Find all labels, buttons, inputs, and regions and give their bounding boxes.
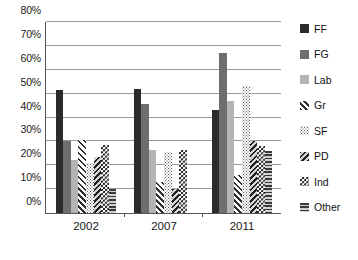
- bar-other-2002[interactable]: [109, 189, 117, 213]
- x-axis-tick-label: 2007: [151, 220, 177, 232]
- bar-group: 2007: [125, 22, 203, 213]
- legend-item-pd[interactable]: PD: [300, 144, 358, 170]
- legend-swatch-gr-icon: [300, 101, 309, 110]
- bar-ff-2007[interactable]: [134, 89, 142, 213]
- bar-ind-2011[interactable]: [257, 146, 265, 213]
- y-axis-tick-label: 0%: [26, 195, 41, 207]
- legend-item-lab[interactable]: Lab: [300, 67, 358, 93]
- x-axis-tick-label: 2011: [230, 220, 255, 232]
- bar-other-2011[interactable]: [265, 151, 273, 213]
- legend-swatch-sf-icon: [300, 126, 309, 135]
- bar-fg-2007[interactable]: [141, 104, 149, 213]
- legend-label: Other: [314, 202, 340, 213]
- bar-pd-2011[interactable]: [250, 141, 258, 213]
- legend-item-ind[interactable]: Ind: [300, 169, 358, 195]
- legend-label: SF: [314, 126, 327, 137]
- legend-swatch-lab-icon: [300, 75, 309, 84]
- bar-group: 2002: [47, 22, 125, 213]
- legend-label: FG: [314, 49, 329, 60]
- legend-item-sf[interactable]: SF: [300, 118, 358, 144]
- bar-pd-2007[interactable]: [172, 189, 180, 213]
- bar-sf-2002[interactable]: [86, 163, 94, 213]
- x-axis-tick-mark: [202, 213, 203, 217]
- bar-ind-2007[interactable]: [179, 150, 187, 213]
- legend-label: Lab: [314, 75, 332, 86]
- legend-item-gr[interactable]: Gr: [300, 93, 358, 119]
- bar-gr-2011[interactable]: [234, 175, 242, 213]
- plot-area: 0%10%20%30%40%50%60%70%80% 200220072011: [45, 22, 281, 214]
- y-axis-tick-label: 20%: [21, 147, 41, 159]
- legend-swatch-pd-icon: [300, 152, 309, 161]
- bar-ff-2002[interactable]: [56, 90, 64, 213]
- bar-pd-2002[interactable]: [94, 157, 102, 213]
- bar-ind-2002[interactable]: [101, 145, 109, 213]
- bar-group: 2011: [203, 22, 281, 213]
- x-axis-tick-label: 2002: [73, 220, 99, 232]
- bar-group-bars: [212, 22, 273, 213]
- legend-item-fg[interactable]: FG: [300, 42, 358, 68]
- legend-label: Gr: [314, 100, 326, 111]
- bar-lab-2011[interactable]: [227, 101, 235, 213]
- x-axis-tick-mark: [124, 213, 125, 217]
- y-axis-tick-label: 60%: [21, 52, 41, 64]
- bar-groups: 200220072011: [47, 22, 281, 213]
- bar-ff-2011[interactable]: [212, 110, 220, 213]
- y-axis-tick-label: 80%: [21, 4, 41, 16]
- bar-gr-2007[interactable]: [156, 182, 164, 213]
- bar-chart: 0%10%20%30%40%50%60%70%80% 200220072011 …: [0, 0, 358, 260]
- legend-item-ff[interactable]: FF: [300, 16, 358, 42]
- y-axis-tick-label: 30%: [21, 123, 41, 135]
- bar-lab-2002[interactable]: [71, 160, 79, 213]
- legend-swatch-fg-icon: [300, 50, 309, 59]
- y-axis-tick-label: 50%: [21, 76, 41, 88]
- legend-swatch-other-icon: [300, 203, 309, 212]
- legend-swatch-ind-icon: [300, 177, 309, 186]
- legend: FFFGLabGrSFPDIndOther: [300, 16, 358, 220]
- bar-fg-2002[interactable]: [63, 141, 71, 213]
- legend-label: FF: [314, 24, 327, 35]
- y-axis-tick-label: 10%: [21, 171, 41, 183]
- y-axis-tick-label: 70%: [21, 28, 41, 40]
- bar-fg-2011[interactable]: [219, 53, 227, 213]
- bar-group-bars: [134, 22, 195, 213]
- bar-gr-2002[interactable]: [78, 140, 86, 213]
- bar-group-bars: [56, 22, 117, 213]
- legend-label: PD: [314, 151, 329, 162]
- bar-sf-2011[interactable]: [242, 86, 250, 213]
- legend-label: Ind: [314, 177, 329, 188]
- y-axis-tick-label: 40%: [21, 100, 41, 112]
- bar-lab-2007[interactable]: [149, 150, 157, 213]
- legend-swatch-ff-icon: [300, 24, 309, 33]
- bar-sf-2007[interactable]: [164, 152, 172, 213]
- legend-item-other[interactable]: Other: [300, 195, 358, 221]
